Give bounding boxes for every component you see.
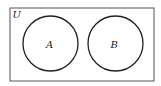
universe-rectangle: [10, 8, 154, 81]
set-b-label: B: [110, 39, 118, 50]
set-a-label: A: [45, 39, 53, 50]
universe-label: U: [13, 9, 22, 20]
venn-diagram: U A B: [0, 0, 161, 86]
